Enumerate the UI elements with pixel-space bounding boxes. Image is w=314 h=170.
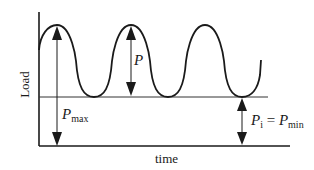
p-i-subscript: i bbox=[260, 119, 263, 130]
load-time-diagram bbox=[0, 0, 314, 170]
p-i-symbol: P bbox=[251, 112, 260, 128]
equals-sign: = bbox=[263, 112, 279, 128]
p-min-label: Pi = Pmin bbox=[251, 113, 304, 128]
y-axis-label: Load bbox=[18, 67, 31, 103]
p-amplitude-label: P bbox=[134, 53, 143, 68]
p-max-arrow bbox=[52, 26, 62, 146]
p-amplitude-symbol: P bbox=[134, 52, 143, 68]
p-min-arrow bbox=[237, 98, 247, 145]
p-min-symbol: P bbox=[279, 112, 288, 128]
x-axis-label: time bbox=[155, 152, 178, 165]
p-max-subscript: max bbox=[71, 113, 88, 124]
load-curve bbox=[39, 25, 261, 97]
p-max-label: Pmax bbox=[62, 107, 88, 122]
p-min-subscript: min bbox=[288, 119, 304, 130]
p-max-symbol: P bbox=[62, 106, 71, 122]
